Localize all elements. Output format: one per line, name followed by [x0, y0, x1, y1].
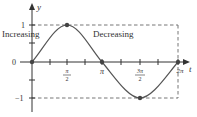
point-0: [30, 60, 34, 64]
sine-diagram: y t 1 0 −1 π 2 π 3π 2 2π Increasing Decr…: [0, 0, 197, 117]
x-tick-label-pi-over-2: π 2: [63, 68, 71, 82]
svg-text:2: 2: [66, 76, 69, 82]
increasing-label: Increasing: [2, 29, 40, 39]
svg-text:2: 2: [139, 76, 142, 82]
x-tick-label-2pi: 2π: [176, 67, 184, 75]
y-axis-arrow-icon: [29, 3, 35, 10]
y-axis-label: y: [36, 2, 41, 12]
point-pi: [100, 60, 104, 64]
decreasing-label: Decreasing: [93, 29, 134, 39]
point-pi-over-2: [65, 23, 69, 27]
svg-text:3π: 3π: [136, 68, 144, 74]
svg-text:π: π: [65, 68, 69, 74]
x-tick-label-3pi-over-2: 3π 2: [135, 68, 145, 82]
y-tick-label-neg1: −1: [15, 94, 24, 103]
point-2pi: [176, 60, 180, 64]
x-tick-label-pi: π: [100, 67, 105, 76]
x-axis-label: t: [189, 64, 192, 74]
point-3pi-over-2: [138, 96, 142, 100]
y-tick-label-0: 0: [12, 58, 16, 67]
